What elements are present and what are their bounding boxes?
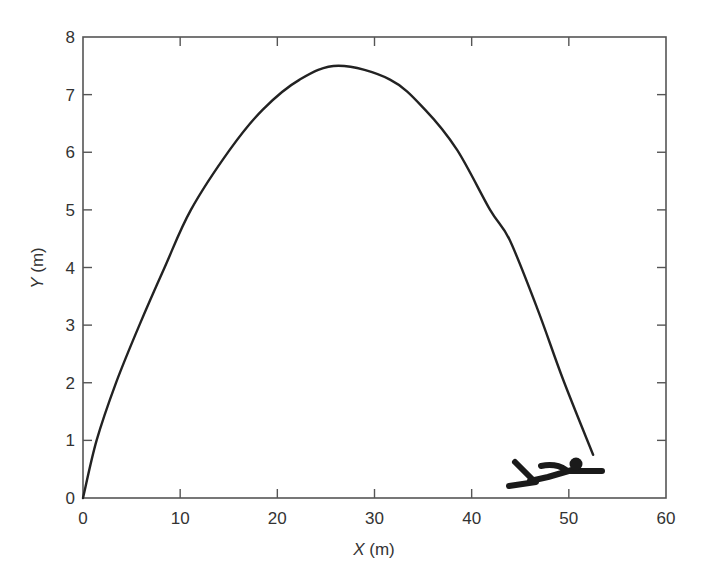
x-tick-label: 40 bbox=[462, 509, 481, 528]
plot-border bbox=[83, 37, 666, 498]
trajectory-curve bbox=[83, 66, 593, 498]
x-tick-label: 50 bbox=[559, 509, 578, 528]
x-tick-label: 10 bbox=[171, 509, 190, 528]
axis-ticks bbox=[83, 37, 666, 498]
y-tick-label: 8 bbox=[66, 28, 75, 47]
x-tick-label: 30 bbox=[365, 509, 384, 528]
y-axis-label: Y (m) bbox=[28, 247, 47, 289]
trajectory-chart: 0102030405060 012345678 X (m) Y (m) bbox=[0, 0, 703, 579]
x-tick-label: 20 bbox=[268, 509, 287, 528]
landed-jumper-icon bbox=[509, 458, 602, 487]
x-axis-label: X (m) bbox=[352, 540, 395, 559]
y-tick-label: 5 bbox=[66, 201, 75, 220]
jumper-arm-bent bbox=[541, 465, 566, 470]
y-tick-label: 0 bbox=[66, 489, 75, 508]
y-tick-label: 6 bbox=[66, 143, 75, 162]
y-tick-label: 7 bbox=[66, 86, 75, 105]
y-tick-label: 2 bbox=[66, 374, 75, 393]
y-tick-label: 1 bbox=[66, 431, 75, 450]
jumper-head bbox=[570, 458, 583, 471]
x-tick-label: 60 bbox=[657, 509, 676, 528]
x-tick-label: 0 bbox=[78, 509, 87, 528]
x-tick-labels: 0102030405060 bbox=[78, 509, 675, 528]
y-tick-label: 4 bbox=[66, 259, 75, 278]
y-tick-labels: 012345678 bbox=[66, 28, 75, 508]
y-tick-label: 3 bbox=[66, 316, 75, 335]
jumper-leg-upper bbox=[515, 462, 532, 479]
plot-frame bbox=[83, 37, 666, 498]
